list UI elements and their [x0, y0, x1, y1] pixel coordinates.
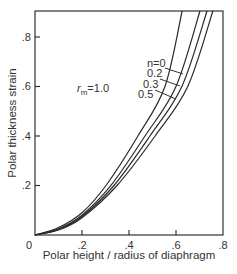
x-tick-label: .8: [218, 239, 227, 251]
curves: [35, 11, 213, 235]
curve-n0: [35, 11, 182, 235]
x-axis-label: Polar height / radius of diaphragm: [43, 249, 216, 261]
curve-n05: [35, 11, 213, 235]
y-tick-label: .6: [22, 80, 31, 92]
y-axis-label: Polar thickness strain: [6, 68, 18, 177]
curve-n03: [35, 11, 207, 235]
x-tick-label: 0: [26, 239, 32, 251]
n05-label: 0.5: [138, 88, 153, 100]
y-tick-label: .2: [22, 179, 31, 191]
y-tick-label: .4: [22, 130, 31, 142]
y-tick-label: .8: [22, 31, 31, 43]
rm-annotation: rm=1.0: [77, 82, 109, 97]
polar-strain-chart: 0.2.4.6.8.2.4.6.8 n=0 0.2 0.3 0.5 rm=1.0…: [0, 0, 237, 274]
plot-frame: [35, 11, 223, 235]
